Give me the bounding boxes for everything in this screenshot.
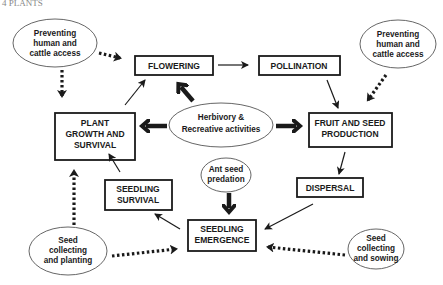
ellipse-ant-predation: Ant seed predation xyxy=(201,158,251,192)
svg-text:POLLINATION: POLLINATION xyxy=(271,61,328,71)
ellipse-prevent-right: Preventing human and cattle access xyxy=(360,20,436,68)
svg-text:SEEDLING: SEEDLING xyxy=(116,184,160,194)
ellipse-seed-sowing: Seed collecting and sowing xyxy=(348,229,404,269)
box-seedling-emergence: SEEDLING EMERGENCE xyxy=(188,220,256,251)
box-pollination: POLLINATION xyxy=(259,56,340,75)
svg-text:human and: human and xyxy=(33,39,77,48)
dotted-arrow-planting-to-emergence xyxy=(112,249,176,256)
page-header: 4 PLANTS xyxy=(2,0,43,8)
ellipse-seed-planting: Seed collecting and planting xyxy=(29,227,107,275)
svg-text:Seed: Seed xyxy=(366,234,386,243)
svg-text:Preventing: Preventing xyxy=(34,29,76,38)
svg-text:Seed: Seed xyxy=(58,236,78,245)
svg-text:cattle access: cattle access xyxy=(373,50,424,59)
svg-text:Herbivory &: Herbivory & xyxy=(198,113,244,122)
svg-text:SURVIVAL: SURVIVAL xyxy=(74,140,116,150)
svg-text:and planting: and planting xyxy=(44,256,93,265)
svg-text:SURVIVAL: SURVIVAL xyxy=(117,195,159,205)
svg-text:FRUIT AND SEED: FRUIT AND SEED xyxy=(315,118,386,128)
svg-text:Ant seed: Ant seed xyxy=(209,165,244,174)
svg-text:predation: predation xyxy=(207,175,244,184)
svg-text:FLOWERING: FLOWERING xyxy=(148,61,200,71)
dotted-arrow-to-fruit xyxy=(368,75,386,100)
box-fruit-seed: FRUIT AND SEED PRODUCTION xyxy=(309,113,392,147)
svg-text:Recreative activities: Recreative activities xyxy=(182,125,261,134)
box-seedling-survival: SEEDLING SURVIVAL xyxy=(105,180,172,210)
svg-text:SEEDLING: SEEDLING xyxy=(200,224,244,234)
svg-text:collecting: collecting xyxy=(357,244,395,253)
arrow-pollination-fruit xyxy=(327,80,338,108)
svg-text:GROWTH AND: GROWTH AND xyxy=(65,129,124,139)
svg-text:collecting: collecting xyxy=(49,246,87,255)
box-flowering: FLOWERING xyxy=(135,56,213,75)
thick-arrow-to-flowering xyxy=(181,87,193,101)
svg-text:DISPERSAL: DISPERSAL xyxy=(306,183,355,193)
ellipse-herbivory: Herbivory & Recreative activities xyxy=(169,103,273,147)
svg-text:and sowing: and sowing xyxy=(353,254,398,263)
svg-text:cattle access: cattle access xyxy=(30,49,81,58)
dotted-arrow-sowing-to-emergence xyxy=(268,247,345,255)
box-plant-growth: PLANT GROWTH AND SURVIVAL xyxy=(55,113,135,160)
arrow-fruit-dispersal xyxy=(339,152,345,174)
svg-text:EMERGENCE: EMERGENCE xyxy=(195,235,250,245)
svg-text:Preventing: Preventing xyxy=(377,30,419,39)
life-cycle-diagram: 4 PLANTS FLOWERING POLLINATION PLANT GRO… xyxy=(0,0,443,285)
arrow-growth-flowering xyxy=(125,80,145,105)
svg-text:PRODUCTION: PRODUCTION xyxy=(321,129,378,139)
arrow-dispersal-emergence xyxy=(265,204,313,229)
ellipse-prevent-left: Preventing human and cattle access xyxy=(13,19,97,67)
svg-text:PLANT: PLANT xyxy=(81,118,110,128)
arrow-emergence-survival xyxy=(155,214,180,229)
dotted-arrow-to-flowering xyxy=(99,53,120,58)
box-dispersal: DISPERSAL xyxy=(297,178,363,197)
svg-text:human and: human and xyxy=(376,40,420,49)
